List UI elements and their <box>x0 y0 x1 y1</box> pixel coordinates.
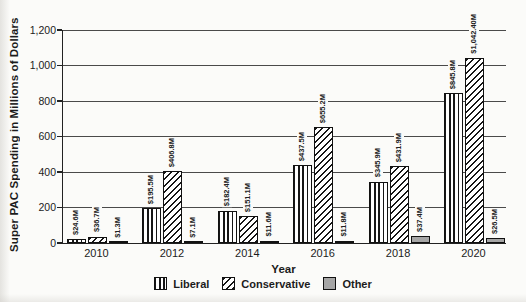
value-label-conservative-2010: $36.7M <box>92 206 102 233</box>
value-label-other-2016: $11.8M <box>339 211 349 238</box>
y-tick-label-600: 600 <box>0 130 56 143</box>
y-tick-label-200: 200 <box>0 201 56 214</box>
bar-conservative-2014 <box>239 216 258 243</box>
bar-conservative-2016 <box>314 127 333 243</box>
bar-conservative-2012 <box>163 171 182 243</box>
legend-swatch-conservative <box>222 277 235 290</box>
value-label-conservative-2020: $1,042.40M <box>469 13 479 55</box>
value-label-other-2018: $37.4M <box>415 206 425 233</box>
legend-item-conservative: Conservative <box>222 277 310 290</box>
bar-liberal-2018 <box>369 182 388 243</box>
bar-other-2010 <box>109 241 128 243</box>
y-tick-label-1200: 1,200 <box>0 24 56 37</box>
value-label-liberal-2016: $437.5M <box>297 131 307 162</box>
x-tick-label-2020: 2020 <box>444 247 504 259</box>
value-label-conservative-2016: $655.2M <box>318 93 328 124</box>
bar-conservative-2010 <box>88 237 107 244</box>
y-axis-tick-0 <box>57 242 62 243</box>
x-tick-label-2010: 2010 <box>67 247 127 259</box>
y-axis-tick-1200 <box>57 29 62 30</box>
y-tick-label-0: 0 <box>0 237 56 250</box>
y-axis-tick-800 <box>57 100 62 101</box>
value-label-liberal-2012: $195.5M <box>146 174 156 205</box>
y-tick-label-800: 800 <box>0 95 56 108</box>
value-label-other-2012: $7.1M <box>188 216 198 239</box>
x-tick-label-2012: 2012 <box>142 247 202 259</box>
x-tick-label-2016: 2016 <box>293 247 353 259</box>
value-label-other-2020: $26.5M <box>490 208 500 235</box>
bar-other-2020 <box>486 238 505 243</box>
legend-item-other: Other <box>323 277 371 290</box>
gridline-800 <box>63 101 506 102</box>
gridline-1000 <box>63 65 506 66</box>
legend-swatch-other <box>323 277 336 290</box>
gridline-600 <box>63 136 506 137</box>
bar-other-2012 <box>184 241 203 243</box>
x-tick-label-2018: 2018 <box>368 247 428 259</box>
value-label-conservative-2014: $151.1M <box>243 182 253 213</box>
bar-liberal-2016 <box>293 165 312 243</box>
gridline-1200 <box>63 30 506 31</box>
bar-other-2016 <box>335 241 354 243</box>
bar-conservative-2020 <box>465 58 484 243</box>
value-label-liberal-2014: $182.4M <box>222 176 232 207</box>
y-axis-tick-1000 <box>57 65 62 66</box>
y-tick-label-400: 400 <box>0 166 56 179</box>
x-axis-title: Year <box>62 263 505 275</box>
legend-label-conservative: Conservative <box>241 278 310 290</box>
bar-chart-figure: Super PAC Spending in Millions of Dollar… <box>0 0 526 302</box>
bar-conservative-2018 <box>390 166 409 243</box>
y-axis-tick-200 <box>57 207 62 208</box>
bar-liberal-2020 <box>444 93 463 243</box>
gridline-200 <box>63 207 506 208</box>
value-label-other-2010: $1.3M <box>113 216 123 239</box>
y-tick-label-1000: 1,000 <box>0 59 56 72</box>
bar-liberal-2014 <box>218 211 237 243</box>
legend-item-liberal: Liberal <box>154 277 209 290</box>
y-axis-tick-600 <box>57 136 62 137</box>
value-label-liberal-2018: $345.9M <box>373 147 383 178</box>
x-tick-label-2014: 2014 <box>217 247 277 259</box>
plot-area: $24.6M$36.7M$1.3M$195.5M$406.8M$7.1M$182… <box>62 30 506 244</box>
y-axis-tick-400 <box>57 171 62 172</box>
value-label-liberal-2010: $24.6M <box>71 209 81 236</box>
value-label-liberal-2020: $845.8M <box>448 59 458 90</box>
value-label-conservative-2012: $406.8M <box>167 137 177 168</box>
bar-other-2014 <box>260 241 279 243</box>
bar-liberal-2012 <box>142 208 161 243</box>
legend-swatch-liberal <box>154 277 167 290</box>
bar-liberal-2010 <box>67 239 86 243</box>
bar-other-2018 <box>411 236 430 243</box>
value-label-conservative-2018: $431.9M <box>394 132 404 163</box>
legend-label-other: Other <box>342 278 371 290</box>
legend: LiberalConservativeOther <box>0 277 526 290</box>
gridline-400 <box>63 172 506 173</box>
legend-label-liberal: Liberal <box>173 278 209 290</box>
value-label-other-2014: $11.6M <box>264 211 274 238</box>
